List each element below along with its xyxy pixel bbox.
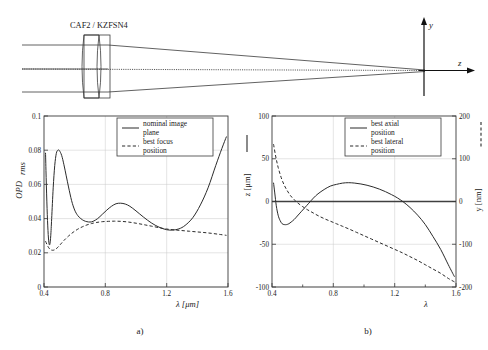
ytick-label-b-left-2: 0 — [265, 198, 269, 206]
diagram-z-axis-label: z — [457, 58, 462, 68]
subfigure-label-a: a) — [137, 326, 144, 336]
subfigure-label-b: b) — [364, 326, 372, 336]
ytick-label-a-1: 0.02 — [28, 249, 41, 257]
xtick-label-b-1: 0.8 — [329, 290, 338, 298]
curve-best-lateral-position — [274, 144, 455, 282]
xtick-label-b-3: 1.6 — [452, 290, 461, 298]
xtick-label-a-1: 0.8 — [101, 290, 110, 298]
panel-a-xlabel: λ [μm] — [175, 299, 199, 309]
legend-a-label-0-line2: plane — [143, 128, 160, 137]
ytick-label-a-3: 0.06 — [28, 181, 41, 189]
ytick-label-a-5: 0.1 — [32, 113, 41, 121]
optical-system-diagram: CAF2 / KZFSN4 y z — [22, 17, 475, 98]
figure-svg: CAF2 / KZFSN4 y z — [0, 0, 488, 350]
panel-b-x-ticks: 0.4 0.8 1.2 1.6 — [268, 283, 461, 298]
ytick-label-b-right-0: -200 — [459, 284, 473, 292]
xtick-label-a-0: 0.4 — [40, 290, 49, 298]
legend-a-label-1-line2: position — [143, 146, 167, 155]
panel-a-y-ticks: 0 0.02 0.04 0.06 0.08 0.1 — [28, 113, 48, 292]
lens-label: CAF2 / KZFSN4 — [70, 21, 129, 30]
z-axis-arrowhead — [467, 68, 475, 74]
ytick-label-b-right-3: 100 — [459, 155, 470, 163]
panel-b: -100 -50 0 50 100 -200 -100 0 100 200 — [242, 113, 483, 337]
panel-a-legend: nominal image plane best focus position — [117, 118, 213, 156]
legend-b-label-1-line2: position — [371, 146, 395, 155]
lens-surface-2 — [99, 35, 101, 98]
ytick-label-a-4: 0.08 — [28, 147, 41, 155]
xtick-label-a-2: 1.2 — [162, 290, 171, 298]
xtick-label-b-2: 1.2 — [390, 290, 399, 298]
panel-a-ylabel-group: OPD rms — [14, 161, 27, 198]
ytick-label-b-right-1: -100 — [459, 241, 473, 249]
xtick-label-b-0: 0.4 — [268, 290, 277, 298]
ytick-label-b-right-2: 0 — [459, 198, 463, 206]
ytick-label-b-left-1: -50 — [259, 241, 269, 249]
ytick-label-b-left-4: 100 — [258, 113, 269, 121]
y-axis-arrowhead — [421, 17, 427, 25]
curve-best-focus-position — [46, 221, 227, 250]
ytick-label-a-2: 0.04 — [28, 215, 41, 223]
panel-b-legend: best axial position best lateral positio… — [345, 118, 441, 156]
ytick-label-b-right-4: 200 — [459, 113, 470, 121]
legend-b-label-0-line2: position — [371, 128, 395, 137]
panel-a-ylabel: OPD — [14, 180, 24, 198]
ytick-label-b-left-3: 50 — [262, 155, 270, 163]
curve-best-axial-position — [274, 183, 455, 277]
panel-b-ylabel-left: z [μm] — [242, 173, 252, 196]
panel-a-x-ticks: 0.4 0.8 1.2 1.6 — [40, 283, 233, 298]
panel-b-ylabel-right: y [nm] — [473, 188, 483, 211]
panel-a: 0 0.02 0.04 0.06 0.08 0.1 0.4 0.8 1.2 1.… — [14, 113, 233, 337]
xtick-label-a-3: 1.6 — [224, 290, 233, 298]
ray-upper-converging — [108, 45, 425, 70]
panel-a-ylabel-subscript: rms — [17, 161, 27, 175]
diagram-y-axis-label: y — [428, 20, 433, 30]
lens-surface-3 — [97, 35, 99, 98]
ray-lower-converging — [108, 72, 425, 93]
panel-b-xlabel: λ — [423, 299, 428, 309]
figure-container: CAF2 / KZFSN4 y z — [0, 0, 488, 350]
